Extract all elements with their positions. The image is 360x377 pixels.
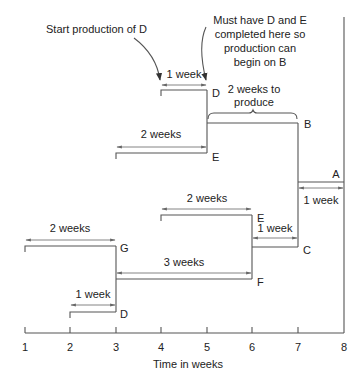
annotation-line: completed here so	[215, 28, 306, 40]
annotation-line: Must have D and E	[213, 14, 307, 26]
node-b: B	[304, 118, 311, 130]
annotation-line: begin on B	[234, 56, 287, 68]
bar-g	[25, 246, 116, 252]
node-e-top: E	[212, 151, 219, 163]
bar-e-mid	[161, 215, 252, 221]
duration-f: 3 weeks	[164, 256, 205, 268]
duration-d-top: 1 week	[167, 68, 202, 80]
bar-d-bottom	[70, 312, 116, 318]
node-c: C	[303, 244, 311, 256]
node-a: A	[332, 168, 340, 180]
node-d-top: D	[212, 87, 220, 99]
duration-c: 1 week	[258, 222, 293, 234]
annotation-start-production-d: Start production of D	[46, 23, 147, 35]
bar-e-top	[116, 153, 207, 159]
duration-d-bottom: 1 week	[76, 288, 111, 300]
axis-tick-label: 4	[158, 341, 164, 353]
annotation-arrow-start-d	[134, 38, 160, 80]
annotation-must-have-d-e: Must have D and E completed here so prod…	[213, 14, 307, 68]
duration-a: 1 week	[304, 194, 339, 206]
axis-tick-label: 8	[341, 341, 347, 353]
duration-e-top: 2 weeks	[141, 128, 182, 140]
annotation-two-weeks-produce-1: 2 weeks to	[228, 83, 281, 95]
axis-tick-label: 2	[67, 341, 73, 353]
bracket-two-weeks-produce	[208, 110, 297, 119]
time-phased-assembly-diagram: Start production of D Must have D and E …	[0, 0, 360, 377]
node-f: F	[257, 276, 264, 288]
time-axis: 1 2 3 4 5 6 7 8 Time in weeks	[22, 327, 347, 370]
axis-title: Time in weeks	[153, 358, 223, 370]
annotation-line: production can	[224, 42, 296, 54]
node-g: G	[120, 242, 129, 254]
duration-e-mid: 2 weeks	[187, 192, 228, 204]
annotation-two-weeks-produce-2: produce	[234, 96, 274, 108]
node-d-bottom: D	[120, 308, 128, 320]
axis-tick-label: 5	[204, 341, 210, 353]
axis-tick-label: 3	[113, 341, 119, 353]
bar-d-top	[161, 90, 207, 96]
duration-g: 2 weeks	[50, 222, 91, 234]
annotation-arrow-must-have	[202, 27, 206, 80]
axis-tick-label: 1	[22, 341, 28, 353]
axis-tick-label: 7	[295, 341, 301, 353]
axis-tick-label: 6	[249, 341, 255, 353]
